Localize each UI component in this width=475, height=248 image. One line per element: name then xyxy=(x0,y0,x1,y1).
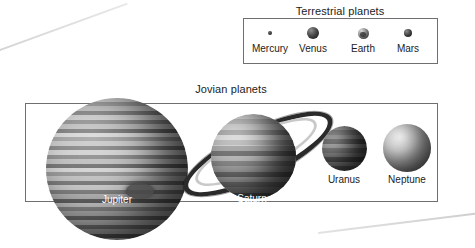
saturn-label: Saturn xyxy=(202,193,302,204)
neptune-label: Neptune xyxy=(357,174,457,185)
uranus-planet-icon xyxy=(322,126,367,171)
mercury-planet-icon xyxy=(268,31,272,35)
terrestrial-planets-frame xyxy=(243,18,438,64)
jupiter-label: Jupiter xyxy=(67,194,167,205)
mars-planet-icon xyxy=(404,29,412,37)
neptune-planet-icon xyxy=(383,124,431,172)
venus-planet-icon xyxy=(307,27,319,39)
terrestrial-planets-title: Terrestrial planets xyxy=(243,5,437,17)
saturn-planet-icon xyxy=(175,88,330,210)
jupiter-planet-icon xyxy=(46,98,188,240)
mars-label: Mars xyxy=(378,43,438,54)
saturn-body-front-overlay xyxy=(211,146,296,200)
earth-planet-icon xyxy=(358,28,369,39)
decorative-diagonal-line-top-left xyxy=(0,3,128,56)
decorative-diagonal-line-bottom-right xyxy=(318,213,475,234)
